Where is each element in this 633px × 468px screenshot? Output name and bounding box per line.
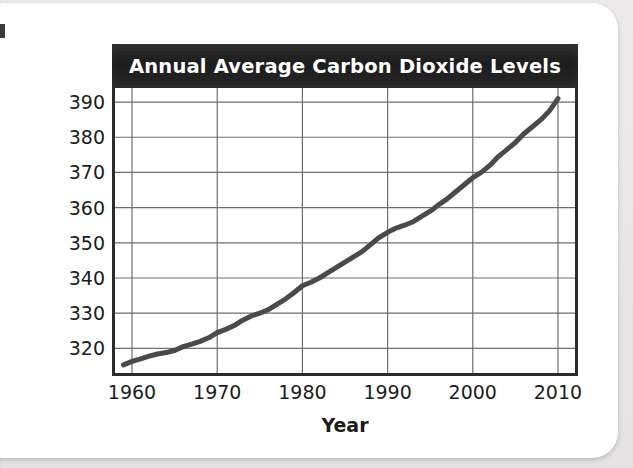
plot-svg	[115, 88, 575, 373]
plot-area	[112, 88, 578, 376]
x-axis-label: Year	[112, 414, 578, 436]
y-tick-label: 390	[35, 91, 105, 113]
plot-inner	[115, 88, 575, 373]
data-line-co2	[124, 99, 558, 365]
x-tick-label: 1970	[193, 381, 241, 403]
chart-title: Annual Average Carbon Dioxide Levels	[129, 55, 561, 78]
y-tick-label: 330	[35, 302, 105, 324]
chart-page: Annual Average Carbon Dioxide Levels Car…	[0, 0, 633, 468]
x-tick-label: 2010	[534, 381, 582, 403]
y-tick-label: 370	[35, 161, 105, 183]
y-tick-label: 320	[35, 337, 105, 359]
co2-line-chart: Annual Average Carbon Dioxide Levels Car…	[0, 0, 633, 468]
x-tick-label: 1990	[363, 381, 411, 403]
y-axis-tick-labels: 320330340350360370380390	[33, 0, 105, 468]
y-tick-label: 340	[35, 267, 105, 289]
x-tick-label: 1980	[278, 381, 326, 403]
y-tick-label: 350	[35, 232, 105, 254]
y-tick-label: 360	[35, 197, 105, 219]
y-tick-label: 380	[35, 126, 105, 148]
x-tick-label: 2000	[449, 381, 497, 403]
chart-title-bar: Annual Average Carbon Dioxide Levels	[112, 44, 578, 88]
x-tick-label: 1960	[108, 381, 156, 403]
